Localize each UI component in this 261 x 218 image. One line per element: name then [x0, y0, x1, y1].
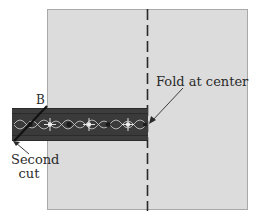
ribbon-trim — [12, 106, 148, 141]
second-cut-label: Second cut — [11, 153, 47, 181]
fold-arrow — [149, 88, 183, 124]
fold-label: Fold at center — [156, 75, 248, 89]
second-cut-label-line1: Second — [11, 153, 47, 167]
second-cut-label-line2: cut — [11, 167, 47, 181]
diagram-drawing — [0, 0, 261, 218]
point-b-label: B — [36, 93, 45, 107]
